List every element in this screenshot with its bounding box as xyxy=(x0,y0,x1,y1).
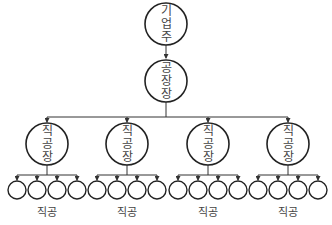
foreman-node: 직공장 xyxy=(187,123,229,165)
foreman-node-char: 직 xyxy=(42,124,53,138)
worker-group-label: 직공 xyxy=(37,206,57,219)
foreman-node-char: 공 xyxy=(42,137,53,151)
foreman-node-char: 장 xyxy=(283,150,294,164)
foreman-node-char: 직 xyxy=(283,124,294,138)
foreman-node-char: 공 xyxy=(283,137,294,151)
worker-node xyxy=(148,181,166,199)
foreman-node-char: 장 xyxy=(42,150,53,164)
manager-node-char: 장 xyxy=(161,87,172,101)
foreman-node-char: 직 xyxy=(122,124,133,138)
foreman-node: 직공장 xyxy=(106,123,148,165)
manager-node: 공장장 xyxy=(145,60,187,102)
worker-node xyxy=(8,181,26,199)
root-node-owner: 기업주 xyxy=(145,3,187,45)
worker-group-label: 직공 xyxy=(117,206,137,219)
worker-node xyxy=(189,181,207,199)
worker-node xyxy=(229,181,247,199)
worker-node xyxy=(169,181,187,199)
org-chart-diagram: 기업주공장장직공장직공직공장직공직공장직공직공장직공 xyxy=(0,0,332,225)
worker-node xyxy=(289,181,307,199)
worker-node xyxy=(68,181,86,199)
worker-node xyxy=(28,181,46,199)
worker-group-label: 직공 xyxy=(198,206,218,219)
foreman-node-char: 공 xyxy=(122,137,133,151)
foreman-node-char: 공 xyxy=(203,137,214,151)
foreman-node: 직공장 xyxy=(267,123,309,165)
worker-node xyxy=(269,181,287,199)
worker-node xyxy=(128,181,146,199)
worker-node xyxy=(48,181,66,199)
nodes: 기업주공장장직공장직공직공장직공직공장직공직공장직공 xyxy=(8,3,327,219)
root-node-owner-char: 업 xyxy=(161,17,172,31)
foreman-node: 직공장 xyxy=(26,123,68,165)
worker-group-label: 직공 xyxy=(278,206,298,219)
foreman-node-char: 장 xyxy=(122,150,133,164)
root-node-owner-char: 주 xyxy=(161,30,172,44)
manager-node-char: 공 xyxy=(161,61,172,75)
worker-node xyxy=(249,181,267,199)
worker-node xyxy=(209,181,227,199)
foreman-node-char: 직 xyxy=(203,124,214,138)
worker-node xyxy=(108,181,126,199)
root-node-owner-char: 기 xyxy=(161,4,172,18)
worker-node xyxy=(309,181,327,199)
worker-node xyxy=(88,181,106,199)
manager-node-char: 장 xyxy=(161,74,172,88)
foreman-node-char: 장 xyxy=(203,150,214,164)
